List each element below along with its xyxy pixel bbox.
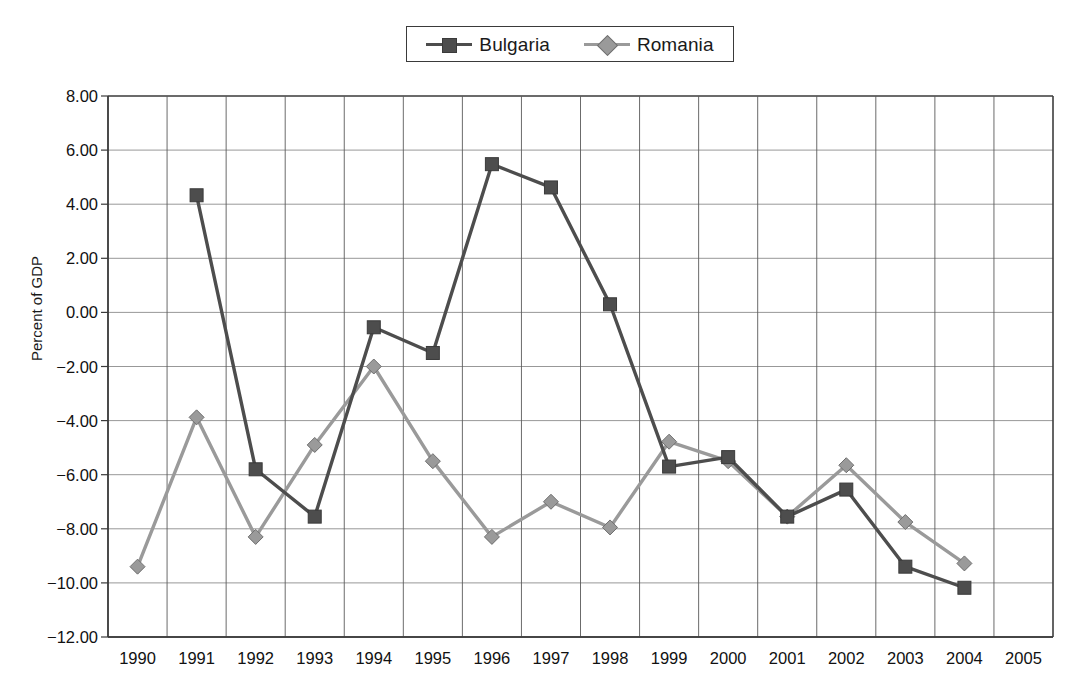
data-point-marker xyxy=(958,581,971,594)
data-point-marker xyxy=(899,560,912,573)
data-point-marker xyxy=(367,321,380,334)
data-point-marker xyxy=(781,510,794,523)
data-point-marker xyxy=(249,463,262,476)
data-point-marker xyxy=(722,451,735,464)
data-point-marker xyxy=(604,298,617,311)
plot-area xyxy=(0,0,1075,693)
data-point-marker xyxy=(189,410,204,425)
data-point-marker xyxy=(190,189,203,202)
data-point-marker xyxy=(840,483,853,496)
data-point-marker xyxy=(426,346,439,359)
chart-container: Bulgaria Romania Percent of GDP 8.006.00… xyxy=(0,0,1075,693)
data-point-marker xyxy=(543,494,558,509)
data-point-marker xyxy=(544,181,557,194)
data-point-marker xyxy=(308,510,321,523)
data-point-marker xyxy=(485,158,498,171)
data-point-marker xyxy=(130,559,145,574)
data-point-marker xyxy=(663,460,676,473)
